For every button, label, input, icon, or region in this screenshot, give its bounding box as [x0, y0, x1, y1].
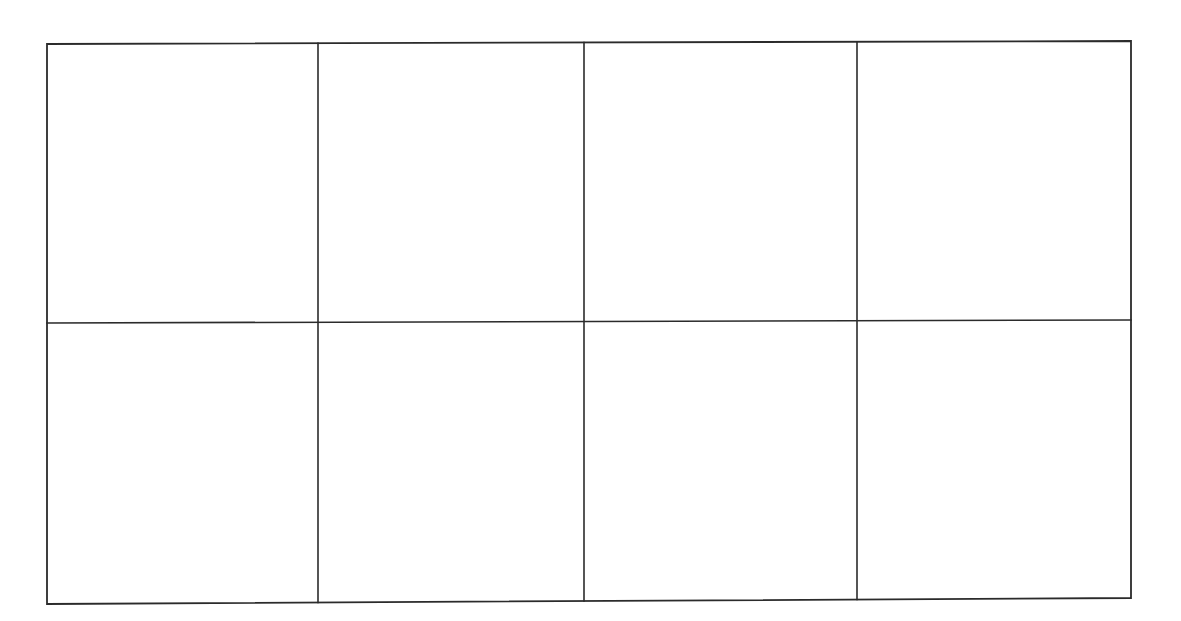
grid-table [0, 0, 1181, 621]
grid-cell-r2c4[interactable] [857, 320, 1131, 600]
grid-cell-r1c3[interactable] [584, 42, 857, 322]
grid-cell-r2c1[interactable] [47, 322, 318, 604]
grid-cell-r1c4[interactable] [857, 41, 1131, 321]
grid-cell-r2c2[interactable] [318, 322, 584, 603]
grid-cell-r1c1[interactable] [47, 43, 318, 323]
grid-cell-r2c3[interactable] [584, 321, 857, 601]
page-canvas [0, 0, 1181, 621]
grid-cell-r1c2[interactable] [318, 43, 584, 323]
